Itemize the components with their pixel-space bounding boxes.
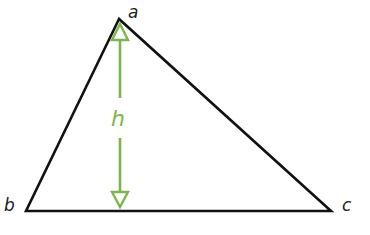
altitude-arrow-down-icon — [112, 192, 128, 207]
vertex-label-b: b — [4, 195, 15, 215]
vertex-label-a: a — [128, 2, 138, 22]
triangle-abc — [26, 19, 331, 211]
vertex-label-c: c — [342, 195, 352, 215]
altitude-label: h — [111, 106, 125, 131]
triangle-diagram: h a b c — [0, 0, 370, 235]
